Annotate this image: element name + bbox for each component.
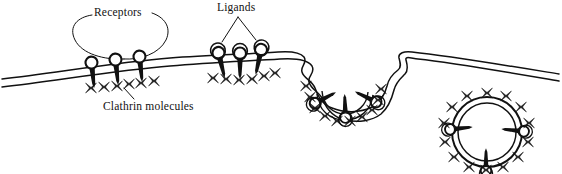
- clathrin-molecule: [270, 68, 281, 78]
- clathrin-molecule: [221, 74, 232, 84]
- receptor-with-ligand: [501, 123, 533, 139]
- clathrin-molecule: [464, 162, 475, 172]
- clathrin-leader-line: [124, 88, 134, 99]
- clathrin-coat-stage-2: [208, 68, 281, 85]
- clathrin-molecule: [149, 76, 160, 86]
- label-ligands: Ligands: [217, 1, 255, 13]
- clathrin-coat-stage-1: [86, 76, 160, 93]
- receptor-with-ligand: [209, 42, 232, 80]
- stage-4-coated-vesicle: [439, 88, 535, 174]
- clathrin-molecule: [234, 75, 245, 85]
- clathrin-molecule: [462, 91, 473, 101]
- clathrin-molecule: [301, 81, 312, 91]
- clathrin-molecule: [447, 102, 458, 112]
- diagram-canvas: [0, 0, 562, 174]
- receptors-leader-line: [73, 13, 168, 59]
- stage-2-ligand-binding: [208, 17, 281, 85]
- receptor: [109, 53, 124, 86]
- clathrin-molecule: [523, 137, 534, 147]
- clathrin-molecule: [259, 71, 270, 81]
- receptor: [133, 50, 148, 83]
- receptor: [85, 56, 100, 89]
- label-receptors: Receptors: [94, 6, 142, 18]
- clathrin-molecule: [86, 83, 97, 93]
- clathrin-molecule: [513, 152, 524, 162]
- clathrin-molecule: [376, 84, 387, 94]
- endocytosis-diagram: Receptors Ligands Clathrin molecules: [0, 0, 562, 174]
- receptor-with-ligand: [248, 39, 270, 77]
- label-clathrin-molecules: Clathrin molecules: [103, 100, 194, 112]
- clathrin-molecule: [247, 74, 258, 84]
- clathrin-molecule: [501, 91, 512, 101]
- clathrin-molecule: [440, 137, 451, 147]
- clathrin-molecule: [208, 73, 219, 83]
- stage-1-free-receptors: [73, 13, 168, 99]
- clathrin-molecule: [124, 79, 135, 89]
- clathrin-molecule: [99, 82, 110, 92]
- stage-3-coated-pit: [301, 81, 388, 127]
- ligands-leader-line: [222, 17, 256, 42]
- clathrin-molecule: [449, 152, 460, 162]
- clathrin-molecule: [516, 102, 527, 112]
